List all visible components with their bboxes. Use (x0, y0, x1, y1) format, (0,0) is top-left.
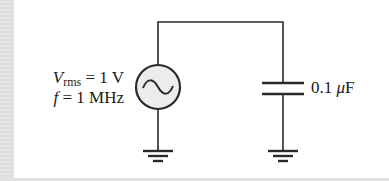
vrms-subscript: rms (63, 75, 81, 89)
vrms-label: Vrms = 1 V (53, 68, 124, 88)
frequency-value: = 1 MHz (62, 88, 124, 107)
top-wire (158, 22, 283, 82)
frequency-symbol: f (53, 88, 58, 107)
capacitance-label: 0.1 μF (311, 78, 355, 98)
ac-source-icon (136, 65, 180, 109)
capacitor-icon (262, 83, 304, 94)
ground-icon (268, 151, 298, 161)
ground-icon (143, 151, 173, 161)
capacitance-unit: F (345, 78, 354, 97)
vrms-value: = 1 V (85, 68, 124, 87)
vrms-symbol: V (53, 68, 63, 87)
capacitance-value: 0.1 (311, 78, 337, 97)
capacitance-prefix: μ (337, 78, 346, 97)
frequency-label: f = 1 MHz (53, 88, 124, 108)
